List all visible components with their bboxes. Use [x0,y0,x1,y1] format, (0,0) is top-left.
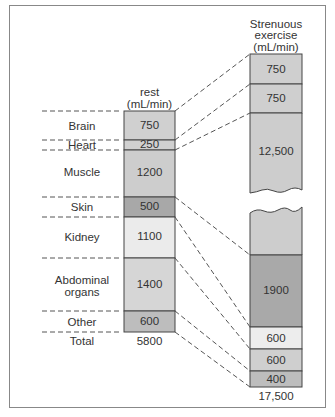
rest-value-kidney: 1100 [124,230,175,242]
exercise-total: 17,500 [250,390,302,402]
rest-value-muscle: 1200 [124,166,175,178]
rest-total: 5800 [124,335,175,347]
exercise-value-other: 400 [250,373,302,385]
organ-label-brain: Brain [42,120,122,132]
total-label: Total [42,335,122,347]
organ-label-kidney: Kidney [42,231,122,243]
organ-label-abdominal: Abdominal [42,274,122,286]
rest-value-heart: 250 [124,138,175,150]
rest-header-line1: rest [124,86,175,98]
organ-label-other: Other [42,316,122,328]
exercise-value-abdominal: 600 [250,354,302,366]
exercise-header-line2: exercise [236,29,316,41]
rest-value-brain: 750 [124,119,175,131]
exercise-header-line3: (mL/min) [236,41,316,53]
rest-value-abdominal: 1400 [124,278,175,290]
exercise-value-skin: 1900 [250,284,302,296]
exercise-value-heart: 750 [250,92,302,104]
organ-label-heart: Heart [42,139,122,151]
blood-flow-diagram: rest (mL/min) Strenuous exercise (mL/min… [0,0,335,417]
organ-label-organs: organs [42,286,122,298]
organ-label-muscle: Muscle [42,166,122,178]
exercise-value-muscle: 12,500 [250,145,302,157]
exercise-value-brain: 750 [250,63,302,75]
rest-value-skin: 500 [124,200,175,212]
rest-value-other: 600 [124,315,175,327]
exercise-value-kidney: 600 [250,332,302,344]
rest-header-line2: (mL/min) [114,98,185,110]
organ-label-skin: Skin [42,201,122,213]
